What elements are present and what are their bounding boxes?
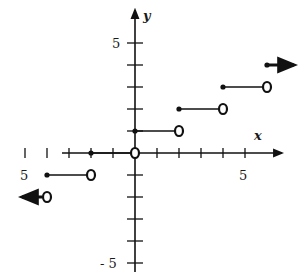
open-endpoint: [131, 148, 139, 158]
y-axis-label: y: [142, 8, 152, 23]
x-tick-label-5: 5: [239, 168, 247, 183]
open-endpoint: [219, 104, 227, 114]
open-endpoint: [175, 126, 183, 136]
y-tick-label-neg5: - 5: [100, 256, 117, 271]
closed-endpoint: [44, 172, 49, 177]
closed-endpoint: [88, 150, 93, 155]
closed-endpoint: [176, 106, 181, 111]
step-function-graph: x y 5 5 5 - 5: [0, 0, 306, 275]
closed-endpoint: [220, 84, 225, 89]
open-endpoint: [87, 170, 95, 180]
closed-endpoint: [132, 128, 137, 133]
open-endpoint: [43, 192, 51, 202]
x-axis-label: x: [253, 128, 262, 143]
y-tick-label-5: 5: [112, 36, 120, 51]
open-endpoint: [263, 82, 271, 92]
closed-endpoint: [264, 62, 269, 67]
axes: [62, 10, 282, 272]
x-tick-label-neg5: 5: [20, 168, 28, 183]
